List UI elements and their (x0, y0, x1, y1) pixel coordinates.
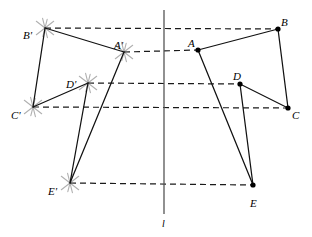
point-label-Bp: B' (23, 30, 32, 41)
E-to-Eprime-dashed-line (70, 183, 253, 185)
edge-Bp-Cp (33, 28, 45, 107)
point-label-Ep: E' (48, 186, 57, 197)
polygon-edge-group (33, 28, 288, 185)
edge-Ep-Ap (70, 52, 124, 183)
figure-canvas (0, 0, 312, 237)
edge-Ap-Bp (45, 28, 124, 52)
vertex-dot-B (275, 26, 280, 31)
A-to-Aprime-dashed-line (124, 50, 198, 52)
vertex-dot-E (250, 182, 255, 187)
C-to-Cprime-dashed-line (33, 107, 288, 108)
geometry-diagram: ABCDEA'B'C'D'E' l (0, 0, 312, 237)
point-label-C: C (292, 110, 299, 121)
vertex-dot-D (237, 81, 242, 86)
B-to-Bprime-dashed-line (45, 28, 278, 29)
point-label-A: A (188, 38, 195, 49)
point-label-Ap: A' (114, 40, 123, 51)
edge-B-C (278, 29, 288, 108)
point-label-Cp: C' (11, 110, 21, 121)
edge-Cp-Dp (33, 83, 88, 107)
edge-Dp-Ep (70, 83, 88, 183)
vertex-dot-C (285, 105, 290, 110)
mirror-line-label: l (162, 219, 165, 229)
point-label-Dp: D' (66, 79, 76, 90)
point-label-E: E (250, 198, 257, 209)
edge-C-D (240, 84, 288, 108)
point-label-B: B (281, 17, 288, 28)
point-label-D: D (233, 71, 241, 82)
edge-A-B (198, 29, 278, 50)
vertex-dot-A (195, 47, 200, 52)
